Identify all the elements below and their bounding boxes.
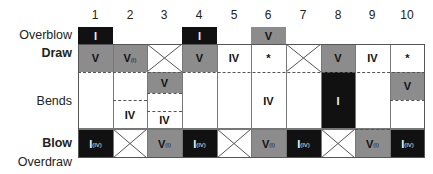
row-label-overblow: Overblow xyxy=(2,28,72,42)
bend-step-divider xyxy=(390,100,425,101)
draw-cell: * xyxy=(251,44,286,72)
row-label-draw: Draw xyxy=(2,46,72,60)
blow-cell: V(I) xyxy=(147,129,182,158)
draw-bend-divider xyxy=(78,72,425,73)
column-number: 3 xyxy=(147,8,181,22)
grid-divider xyxy=(390,44,391,158)
column-number: 9 xyxy=(355,8,389,22)
draw-cell-unavailable xyxy=(147,44,182,72)
bend-cell: IV xyxy=(147,111,182,129)
blow-cell: I(IV) xyxy=(286,129,321,158)
row-label-bends: Bends xyxy=(2,94,72,108)
column-number: 5 xyxy=(217,8,251,22)
blow-cell-unavailable xyxy=(217,129,251,158)
bend-step-divider xyxy=(147,93,182,94)
blow-cell: I(IV) xyxy=(78,129,113,158)
draw-cell: V(I) xyxy=(113,44,147,72)
row-label-overdraw: Overdraw xyxy=(2,155,72,169)
grid-divider xyxy=(217,44,218,158)
bend-cell: V xyxy=(147,72,182,93)
grid-divider xyxy=(113,44,114,158)
blow-cell: I(IV) xyxy=(182,129,217,158)
grid-divider xyxy=(251,44,252,158)
draw-cell: IV xyxy=(355,44,390,72)
grid-divider xyxy=(355,44,356,158)
column-number: 1 xyxy=(78,8,112,22)
bend-cell: IV xyxy=(251,72,286,129)
cross-icon xyxy=(217,129,251,158)
bend-cell: IV xyxy=(113,100,147,129)
cross-icon xyxy=(286,44,321,72)
blow-cell: I(IV) xyxy=(390,129,425,158)
blow-cell: V(I) xyxy=(251,129,286,158)
grid-divider xyxy=(182,44,183,158)
column-number: 2 xyxy=(113,8,147,22)
row-label-blow: Blow xyxy=(2,136,72,150)
overblow-cell: V xyxy=(251,27,286,44)
blow-cell: V(I) xyxy=(355,129,390,158)
column-number: 8 xyxy=(321,8,355,22)
draw-cell-unavailable xyxy=(286,44,321,72)
draw-cell: V xyxy=(321,44,355,72)
bend-step-divider xyxy=(355,129,390,130)
column-number: 7 xyxy=(286,8,320,22)
draw-cell: V xyxy=(182,44,217,72)
grid-divider xyxy=(321,44,322,158)
draw-cell: * xyxy=(390,44,425,72)
cross-icon xyxy=(321,129,355,158)
column-number: 4 xyxy=(182,8,216,22)
overblow-cell: I xyxy=(78,27,113,44)
blow-cell-unavailable xyxy=(321,129,355,158)
cross-icon xyxy=(147,44,182,72)
draw-cell: IV xyxy=(217,44,251,72)
grid-divider xyxy=(147,44,148,158)
bend-step-divider xyxy=(147,111,182,112)
column-number: 10 xyxy=(390,8,424,22)
grid-divider xyxy=(286,44,287,158)
bend-cell: V xyxy=(390,72,425,100)
overblow-cell: I xyxy=(182,27,217,44)
bend-cell: I xyxy=(321,72,355,129)
blow-cell-unavailable xyxy=(113,129,147,158)
cross-icon xyxy=(113,129,147,158)
draw-cell: V xyxy=(78,44,113,72)
column-number: 6 xyxy=(251,8,285,22)
bend-step-divider xyxy=(113,100,147,101)
